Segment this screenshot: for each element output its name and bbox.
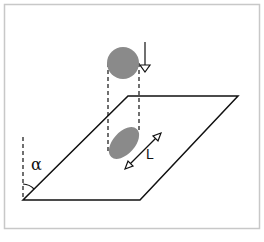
length-label: L: [146, 146, 154, 162]
angle-label: α: [31, 155, 42, 174]
figure-frame: [5, 5, 260, 229]
angle-arc: [23, 184, 34, 189]
diagram-svg: [0, 0, 264, 242]
falling-drop: [107, 47, 139, 79]
diagram-canvas: α L: [0, 0, 264, 242]
fall-arrow-head: [140, 65, 150, 72]
